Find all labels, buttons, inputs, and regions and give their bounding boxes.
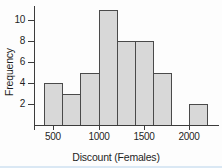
y-tick bbox=[28, 83, 34, 84]
x-tick-label: 1000 bbox=[83, 131, 115, 143]
y-tick-label: 10 bbox=[5, 14, 25, 26]
x-tick-label: 2000 bbox=[173, 131, 205, 143]
y-tick bbox=[28, 41, 34, 42]
bar bbox=[135, 41, 154, 126]
x-tick bbox=[99, 126, 100, 130]
histogram-chart: 246810500100015002000 Frequency Discount… bbox=[0, 0, 222, 168]
y-tick-label: 2 bbox=[5, 98, 25, 110]
x-tick bbox=[53, 126, 54, 130]
y-axis-line bbox=[34, 6, 35, 130]
bar bbox=[44, 83, 63, 126]
scan-edge-artifact bbox=[0, 166, 222, 168]
x-tick-label: 500 bbox=[37, 131, 69, 143]
bar bbox=[153, 73, 172, 126]
bar bbox=[99, 10, 118, 126]
y-tick bbox=[28, 20, 34, 21]
x-tick bbox=[189, 126, 190, 130]
y-axis-title: Frequency bbox=[3, 48, 15, 96]
x-axis-title: Discount (Females) bbox=[72, 151, 159, 163]
bar bbox=[189, 104, 208, 126]
x-tick-label: 1500 bbox=[128, 131, 160, 143]
y-tick bbox=[28, 104, 34, 105]
bar bbox=[80, 73, 100, 126]
y-tick-label: 8 bbox=[5, 35, 25, 47]
bar bbox=[117, 41, 136, 126]
y-tick bbox=[28, 62, 34, 63]
plot-area: 246810500100015002000 bbox=[0, 0, 222, 168]
x-axis-line bbox=[34, 125, 219, 126]
x-tick bbox=[144, 126, 145, 130]
bar bbox=[62, 94, 81, 126]
